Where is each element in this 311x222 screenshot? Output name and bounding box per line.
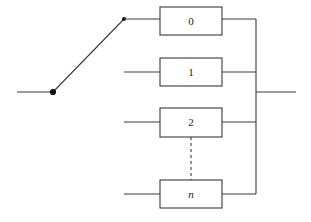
block-label-1: 1 [188, 66, 194, 78]
diagram-canvas: 0 1 2 n [0, 0, 311, 222]
block-label-0: 0 [188, 15, 194, 27]
switch-arm-line [53, 19, 124, 92]
block-label-n: n [188, 188, 194, 200]
block-diagram-figure: 0 1 2 n [0, 0, 311, 222]
switch-pivot-dot [50, 89, 56, 95]
block-label-2: 2 [188, 116, 194, 128]
